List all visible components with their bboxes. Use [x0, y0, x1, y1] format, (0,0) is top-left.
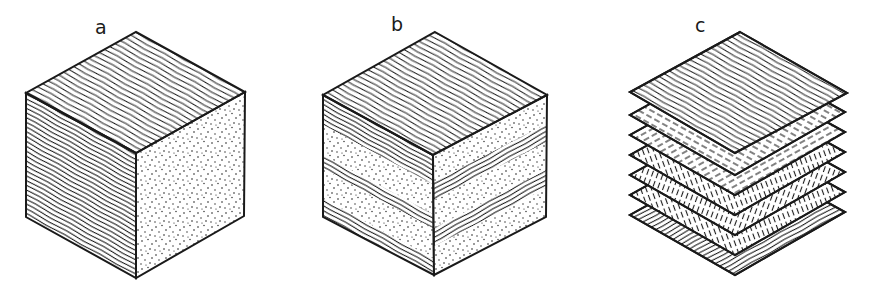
figure-drawing — [0, 0, 869, 295]
panel-label-c: c — [695, 16, 705, 35]
panel-label-a: a — [95, 18, 107, 37]
panel-c-veneer-stack — [630, 32, 847, 275]
panel-label-b: b — [391, 15, 403, 34]
wood-structure-figure: a b c — [0, 0, 869, 295]
panel-b-laminated-block — [320, 32, 550, 282]
panel-a-solid-block — [26, 32, 245, 278]
